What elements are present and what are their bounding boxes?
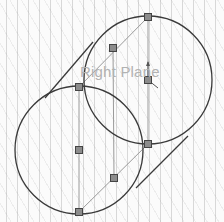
sketch-viewport[interactable]: Right Plane [0, 0, 224, 222]
sketch-point[interactable] [111, 175, 118, 182]
sketch-point[interactable] [110, 45, 117, 52]
sketch-point[interactable] [76, 147, 83, 154]
sketch-geometry[interactable] [0, 0, 224, 222]
sketch-point[interactable] [76, 84, 83, 91]
right-plane-label: Right Plane [80, 63, 160, 80]
sketch-point[interactable] [145, 141, 152, 148]
sketch-point[interactable] [76, 209, 83, 216]
sketch-point[interactable] [145, 14, 152, 21]
